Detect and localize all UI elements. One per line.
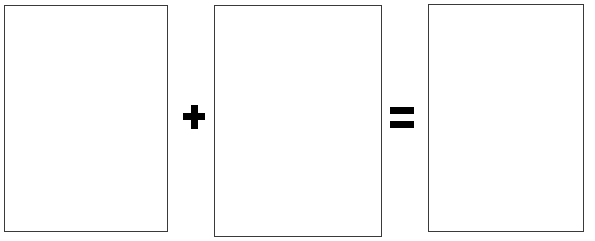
panel-2-content [215, 6, 381, 236]
operand-panel-1 [4, 5, 168, 232]
panel-3-content [429, 5, 583, 231]
equation-canvas: + = [0, 0, 595, 241]
result-panel [428, 4, 584, 232]
plus-vertical-bar [191, 105, 198, 129]
panel-1-content [5, 6, 167, 231]
equals-icon: = [390, 107, 414, 128]
operand-panel-2 [214, 5, 382, 237]
equals-bottom-bar [390, 121, 414, 128]
plus-icon: + [183, 105, 205, 129]
equals-top-bar [390, 107, 414, 114]
